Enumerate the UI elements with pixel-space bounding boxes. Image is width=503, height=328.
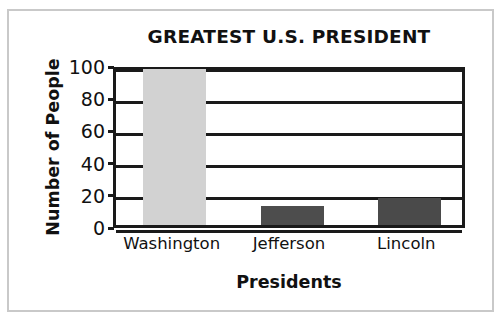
bar-lincoln	[378, 198, 441, 225]
plot-area	[113, 67, 465, 228]
y-tick-label-20: 20	[47, 187, 105, 206]
bar-series	[116, 70, 462, 225]
y-tick-label-80: 80	[47, 90, 105, 109]
x-tick-label-lincoln: Lincoln	[326, 234, 486, 253]
y-tick-label-40: 40	[47, 155, 105, 174]
y-tick-label-100: 100	[47, 58, 105, 77]
y-axis-title: Number of People	[43, 47, 63, 247]
gridline-0	[116, 230, 462, 233]
bar-jefferson	[261, 206, 324, 225]
bar-washington	[143, 69, 206, 225]
bar-chart-figure: GREATEST U.S. PRESIDENT Number of People…	[0, 0, 503, 328]
chart-title: GREATEST U.S. PRESIDENT	[113, 26, 465, 47]
y-tick-label-60: 60	[47, 122, 105, 141]
x-axis-title: Presidents	[113, 272, 465, 292]
